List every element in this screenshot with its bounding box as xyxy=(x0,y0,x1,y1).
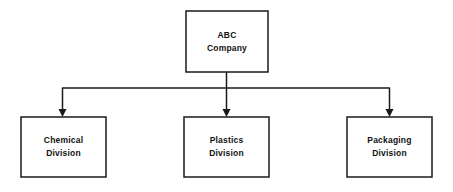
arrowhead-packaging-icon xyxy=(386,109,394,117)
node-chemical-division-box xyxy=(21,117,106,177)
node-abc-company-line1: ABC xyxy=(217,30,236,40)
arrowhead-chemical-icon xyxy=(59,109,67,117)
node-abc-company-line2: Company xyxy=(207,43,247,53)
org-chart-svg: ABC Company Chemical Division Plastics D… xyxy=(0,0,453,192)
node-chemical-division-line2: Division xyxy=(46,148,81,158)
arrowhead-plastics-icon xyxy=(223,109,231,117)
node-plastics-division[interactable]: Plastics Division xyxy=(184,117,269,177)
node-packaging-division-box xyxy=(347,117,432,177)
node-packaging-division-line1: Packaging xyxy=(367,135,411,145)
node-chemical-division[interactable]: Chemical Division xyxy=(21,117,106,177)
node-plastics-division-line2: Division xyxy=(209,148,244,158)
node-chemical-division-line1: Chemical xyxy=(44,135,83,145)
node-plastics-division-box xyxy=(184,117,269,177)
node-plastics-division-line1: Plastics xyxy=(210,135,244,145)
org-chart-canvas: ABC Company Chemical Division Plastics D… xyxy=(0,0,453,192)
node-packaging-division[interactable]: Packaging Division xyxy=(347,117,432,177)
node-abc-company-box xyxy=(186,11,268,72)
node-abc-company[interactable]: ABC Company xyxy=(186,11,268,72)
node-packaging-division-line2: Division xyxy=(372,148,407,158)
